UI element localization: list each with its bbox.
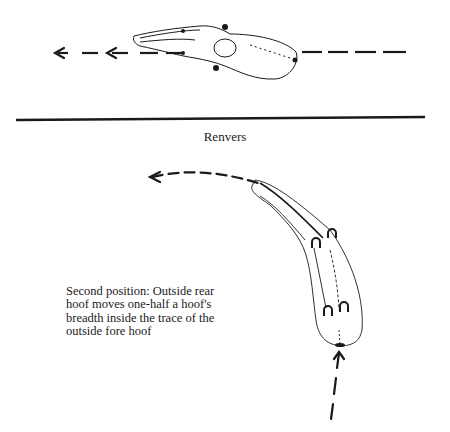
section-title: Renvers [0, 129, 450, 145]
hoof-print-icon [312, 229, 348, 316]
divider-line [16, 117, 425, 120]
curved-arrow-icon [150, 172, 258, 183]
tail-mark [335, 343, 345, 347]
horse-topview-icon [252, 180, 363, 346]
top-panel [16, 24, 425, 120]
figure-caption: Second position: Outside rear hoof moves… [66, 285, 236, 339]
hoof-marks [181, 24, 298, 71]
direction-arrow-up-icon [331, 352, 344, 419]
renvers-diagram [0, 0, 450, 432]
